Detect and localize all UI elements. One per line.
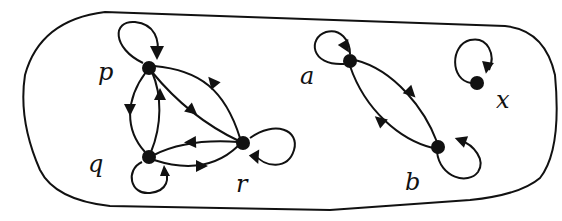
node-r	[236, 136, 250, 150]
arrow-r-q	[184, 136, 196, 148]
node-p	[142, 61, 156, 75]
node-b	[431, 140, 445, 154]
edge-x-x	[455, 39, 491, 83]
edge-r-p	[154, 66, 240, 138]
label-r: r	[236, 170, 249, 198]
arrow-b-b	[453, 132, 468, 147]
node-a	[343, 54, 357, 68]
arrow-r-p	[204, 73, 221, 90]
arrow-p-p	[150, 46, 164, 60]
arrow-x-x	[480, 61, 494, 75]
edge-q-p	[151, 72, 159, 152]
label-a: a	[300, 62, 314, 90]
relation-digraph: p q r a b x	[0, 0, 562, 221]
arrow-p-q	[124, 104, 136, 116]
arrow-a-a	[338, 39, 354, 55]
node-q	[142, 150, 156, 164]
arrow-r-r	[249, 150, 265, 166]
edge-q-q	[132, 162, 167, 193]
node-x	[470, 76, 484, 90]
edge-p-q	[130, 72, 146, 152]
set-boundary	[23, 12, 556, 210]
edge-p-p	[119, 22, 158, 63]
label-b: b	[405, 168, 420, 196]
arrow-q-r	[196, 160, 208, 172]
arrow-q-p	[154, 88, 166, 100]
arrow-q-q	[160, 165, 170, 176]
label-p: p	[98, 58, 113, 86]
label-x: x	[496, 86, 510, 114]
label-q: q	[88, 150, 103, 178]
